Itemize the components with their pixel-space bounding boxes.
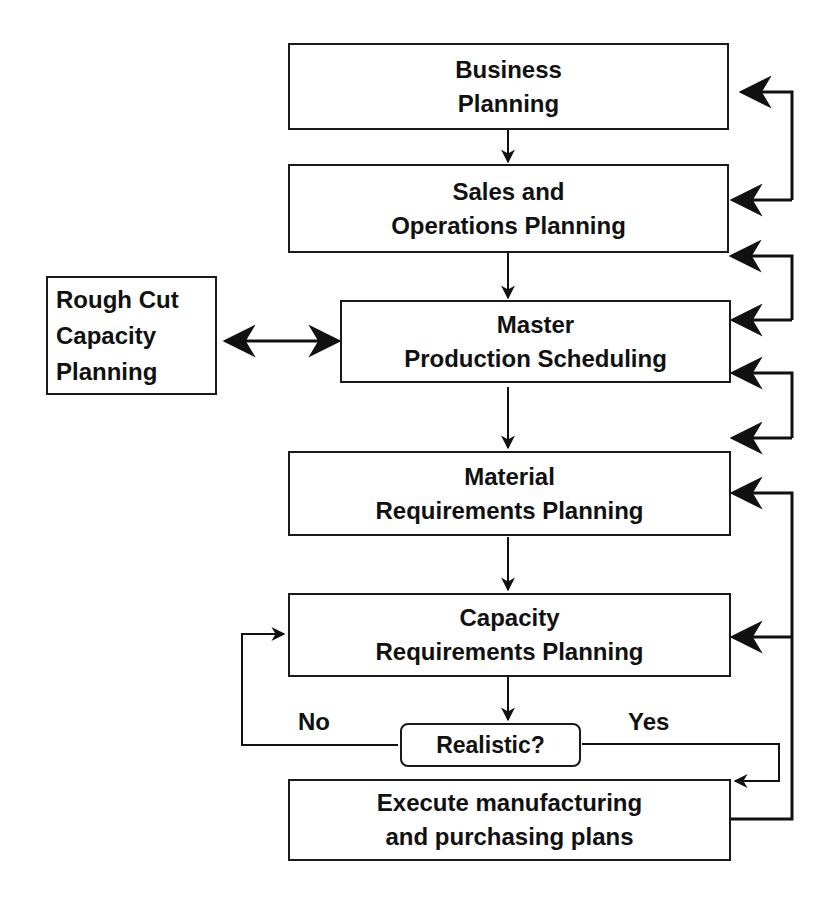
node-label: and purchasing plans [385, 820, 633, 854]
node-business-planning: Business Planning [288, 43, 729, 130]
node-decision-realistic: Realistic? [400, 723, 581, 767]
node-label: Requirements Planning [375, 635, 643, 669]
node-execute-plans: Execute manufacturing and purchasing pla… [288, 779, 731, 861]
node-master-production-scheduling: Master Production Scheduling [340, 300, 731, 383]
node-label: Planning [56, 354, 157, 390]
node-label: Material [464, 460, 555, 494]
node-label: Requirements Planning [375, 494, 643, 528]
node-rough-cut-capacity-planning: Rough Cut Capacity Planning [46, 276, 217, 395]
edge-label-no: No [298, 708, 330, 736]
node-label: Capacity [56, 318, 156, 354]
node-sales-operations-planning: Sales and Operations Planning [288, 164, 729, 253]
node-label: Operations Planning [391, 209, 626, 243]
edge-label-yes: Yes [628, 708, 669, 736]
node-label: Realistic? [436, 731, 545, 759]
node-label: Rough Cut [56, 282, 179, 318]
node-label: Capacity [459, 601, 559, 635]
node-capacity-requirements-planning: Capacity Requirements Planning [288, 593, 731, 677]
node-label: Master [497, 308, 574, 342]
node-material-requirements-planning: Material Requirements Planning [288, 451, 731, 536]
node-label: Production Scheduling [404, 342, 667, 376]
node-label: Sales and [452, 175, 564, 209]
node-label: Planning [458, 87, 559, 121]
node-label: Business [455, 53, 562, 87]
node-label: Execute manufacturing [377, 786, 642, 820]
